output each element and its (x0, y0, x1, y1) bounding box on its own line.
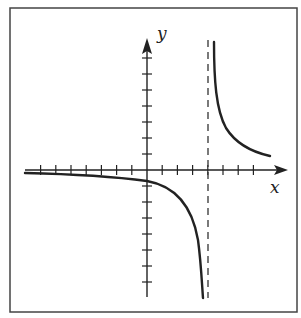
x-axis-label: x (270, 177, 280, 197)
y-axis-label: y (156, 23, 167, 43)
curve-right-branch (214, 42, 270, 156)
frame-border (10, 8, 297, 312)
curve-left-branch (25, 173, 203, 298)
function-graph: x y (0, 0, 301, 318)
y-axis (142, 38, 152, 297)
